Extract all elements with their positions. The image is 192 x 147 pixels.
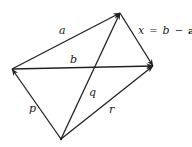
vector-p bbox=[12, 69, 61, 139]
vector-q bbox=[61, 13, 120, 139]
vector-r bbox=[61, 66, 153, 139]
label-x-equals: = bbox=[149, 25, 157, 36]
vector-a bbox=[12, 13, 120, 69]
label-r: r bbox=[109, 103, 115, 116]
label-x-minus: − bbox=[175, 25, 183, 36]
label-x-a: a bbox=[188, 25, 192, 36]
label-b: b bbox=[70, 53, 77, 66]
label-a: a bbox=[59, 24, 66, 37]
vector-diagram: a b x = b − a p q r bbox=[0, 0, 192, 147]
label-x-b: b bbox=[163, 24, 170, 37]
vertex-bottom bbox=[60, 138, 62, 140]
label-x: x bbox=[138, 24, 145, 37]
vector-b bbox=[12, 66, 153, 69]
label-p: p bbox=[29, 102, 36, 115]
label-x-equation: x = b − a bbox=[138, 20, 192, 37]
label-q: q bbox=[89, 86, 96, 99]
